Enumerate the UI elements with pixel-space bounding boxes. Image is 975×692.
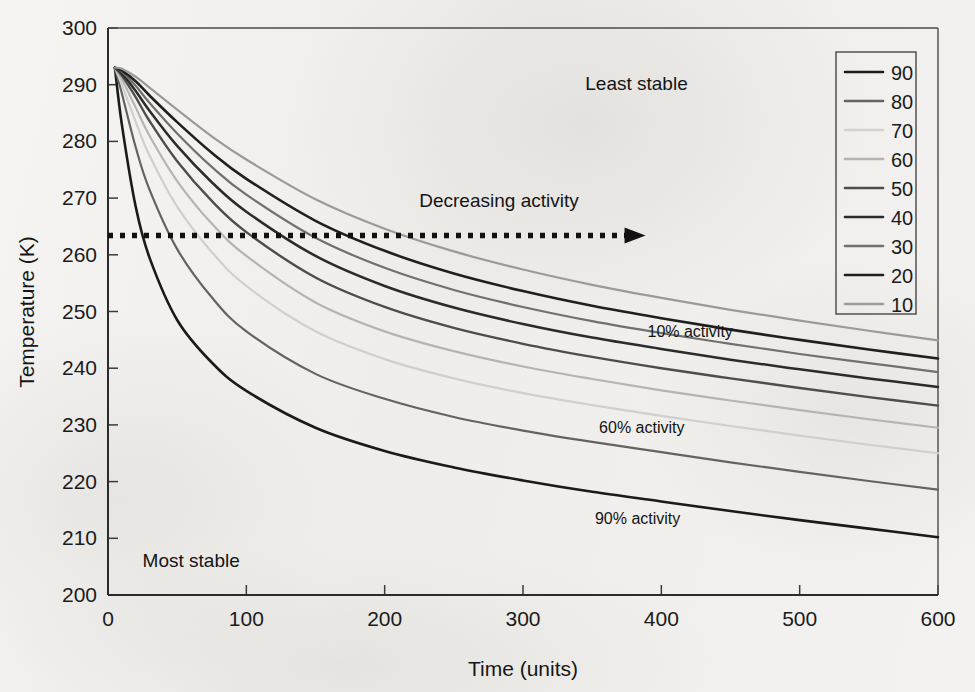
y-axis-title: Temperature (K)	[15, 236, 38, 388]
y-tick-label: 210	[62, 526, 97, 549]
legend-label-40: 40	[891, 207, 913, 229]
x-tick-label: 600	[920, 607, 955, 630]
curve-inline-labels: 10% activity60% activity90% activity	[595, 323, 733, 527]
y-tick-label: 270	[62, 186, 97, 209]
annotation-most-stable: Most stable	[143, 550, 240, 571]
legend-label-20: 20	[891, 265, 913, 287]
legend-label-30: 30	[891, 236, 913, 258]
legend-label-10: 10	[891, 294, 913, 316]
annotation-decreasing-activity: Decreasing activity	[419, 190, 579, 211]
data-curves	[115, 68, 938, 537]
legend-label-90: 90	[891, 62, 913, 84]
annotation-least-stable: Least stable	[585, 73, 687, 94]
data-curve-70	[115, 68, 938, 454]
y-tick-label: 280	[62, 129, 97, 152]
y-tick-label: 240	[62, 356, 97, 379]
y-tick-label: 230	[62, 413, 97, 436]
decreasing-activity-arrow	[108, 228, 646, 244]
annotation-label-60-activity: 60% activity	[599, 419, 684, 436]
chart-canvas: 200210220230240250260270280290300 010020…	[0, 0, 975, 692]
x-tick-label: 400	[644, 607, 679, 630]
y-axis-tick-labels: 200210220230240250260270280290300	[62, 16, 97, 606]
y-tick-label: 200	[62, 583, 97, 606]
x-tick-label: 500	[782, 607, 817, 630]
legend-items: 908070605040302010	[845, 62, 913, 316]
y-axis-tick-marks	[108, 28, 118, 595]
legend: 908070605040302010	[836, 52, 916, 316]
legend-label-70: 70	[891, 120, 913, 142]
x-tick-label: 100	[229, 607, 264, 630]
legend-label-60: 60	[891, 149, 913, 171]
annotation-label-10-activity: 10% activity	[648, 323, 733, 340]
data-curve-90	[115, 68, 938, 537]
annotation-label-90-activity: 90% activity	[595, 510, 680, 527]
chart-annotations: Least stableMost stableDecreasing activi…	[143, 73, 688, 570]
arrow-head	[625, 228, 646, 244]
plot-area-frame	[108, 28, 938, 595]
x-tick-label: 200	[367, 607, 402, 630]
temperature-vs-time-chart: 200210220230240250260270280290300 010020…	[0, 0, 975, 692]
x-axis-tick-labels: 0100200300400500600	[102, 607, 955, 630]
y-tick-label: 300	[62, 16, 97, 39]
y-tick-label: 260	[62, 243, 97, 266]
data-curve-60	[115, 68, 938, 428]
y-tick-label: 220	[62, 470, 97, 493]
y-tick-label: 250	[62, 300, 97, 323]
x-tick-label: 0	[102, 607, 114, 630]
legend-label-80: 80	[891, 91, 913, 113]
x-tick-label: 300	[505, 607, 540, 630]
x-axis-title: Time (units)	[468, 657, 578, 680]
y-tick-label: 290	[62, 73, 97, 96]
x-axis-tick-marks	[108, 585, 938, 595]
legend-label-50: 50	[891, 178, 913, 200]
data-curve-20	[115, 68, 938, 359]
